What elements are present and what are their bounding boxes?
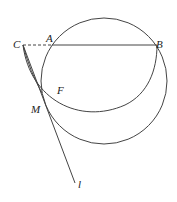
large-circle bbox=[41, 18, 167, 144]
label-F: F bbox=[56, 84, 64, 96]
geometry-diagram: C A B F M l bbox=[0, 0, 177, 202]
label-C: C bbox=[13, 38, 21, 50]
label-l: l bbox=[78, 178, 81, 190]
arc-CB bbox=[23, 45, 157, 112]
label-M: M bbox=[30, 103, 41, 115]
label-B: B bbox=[156, 38, 163, 50]
label-A: A bbox=[45, 32, 53, 44]
